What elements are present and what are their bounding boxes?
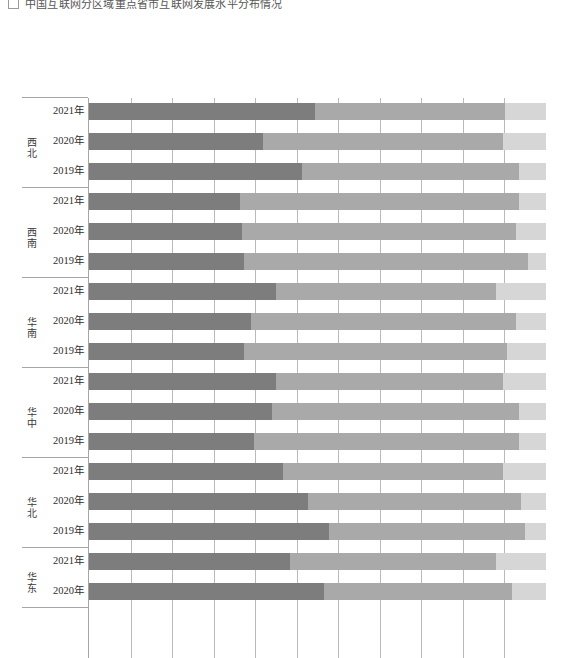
region-axis-label: 华东 (22, 553, 40, 613)
bar-row[interactable] (89, 223, 546, 240)
bar-segment-3[interactable] (519, 163, 546, 180)
bar-segment-1[interactable] (89, 373, 276, 390)
bar-segment-2[interactable] (324, 583, 511, 600)
bar-segment-2[interactable] (251, 313, 516, 330)
bar-segment-3[interactable] (521, 493, 546, 510)
group-separator (22, 367, 40, 368)
bar-segment-2[interactable] (244, 253, 527, 270)
bar-segment-2[interactable] (263, 133, 503, 150)
bar-segment-1[interactable] (89, 463, 283, 480)
bar-segment-3[interactable] (507, 343, 546, 360)
bar-row[interactable] (89, 343, 546, 360)
bar-segment-3[interactable] (516, 313, 546, 330)
group-separator (40, 607, 88, 608)
bar-segment-1[interactable] (89, 403, 272, 420)
bar-segment-1[interactable] (89, 493, 308, 510)
bar-segment-3[interactable] (512, 583, 546, 600)
stacked-bar-chart: 西北西南华南华中华北华东 2021年2020年2019年2021年2020年20… (22, 98, 546, 658)
bar-row[interactable] (89, 193, 546, 210)
year-tick-label: 2021年 (40, 466, 84, 477)
year-tick-label: 2019年 (40, 436, 84, 447)
year-tick-label: 2021年 (40, 196, 84, 207)
bar-row[interactable] (89, 163, 546, 180)
bar-segment-3[interactable] (516, 223, 546, 240)
group-separator (40, 547, 88, 548)
bar-segment-1[interactable] (89, 583, 324, 600)
bar-segment-2[interactable] (244, 343, 507, 360)
bar-segment-2[interactable] (283, 463, 502, 480)
bar-segment-1[interactable] (89, 283, 276, 300)
year-tick-label: 2020年 (40, 226, 84, 237)
bar-segment-3[interactable] (519, 403, 546, 420)
year-tick-label: 2019年 (40, 256, 84, 267)
bar-segment-2[interactable] (308, 493, 521, 510)
group-separator (22, 277, 40, 278)
bar-row[interactable] (89, 553, 546, 570)
axis-top-border (22, 97, 40, 98)
bar-row[interactable] (89, 133, 546, 150)
bar-segment-3[interactable] (525, 523, 546, 540)
group-separator (22, 457, 40, 458)
bar-segment-3[interactable] (503, 133, 546, 150)
year-tick-label: 2019年 (40, 346, 84, 357)
bar-segment-3[interactable] (503, 463, 546, 480)
bar-row[interactable] (89, 283, 546, 300)
bar-row[interactable] (89, 523, 546, 540)
bar-row[interactable] (89, 373, 546, 390)
year-tick-label: 2020年 (40, 136, 84, 147)
bar-row[interactable] (89, 583, 546, 600)
group-separator (40, 367, 88, 368)
bar-segment-2[interactable] (276, 283, 495, 300)
bar-segment-3[interactable] (503, 373, 546, 390)
year-axis: 2021年2020年2019年2021年2020年2019年2021年2020年… (40, 98, 88, 658)
bar-row[interactable] (89, 313, 546, 330)
bar-segment-1[interactable] (89, 223, 242, 240)
caption-text: 中国互联网分区域重点省市互联网发展水平分布情况 (25, 0, 283, 11)
bar-segment-1[interactable] (89, 343, 244, 360)
bar-segment-1[interactable] (89, 523, 329, 540)
bar-row[interactable] (89, 253, 546, 270)
checkbox-unchecked-icon[interactable] (8, 0, 19, 9)
bar-row[interactable] (89, 463, 546, 480)
bar-segment-2[interactable] (242, 223, 516, 240)
bar-row[interactable] (89, 433, 546, 450)
year-tick-label: 2021年 (40, 286, 84, 297)
axis-top-border (40, 97, 88, 98)
group-separator (22, 607, 40, 608)
bar-segment-3[interactable] (496, 283, 546, 300)
bar-segment-1[interactable] (89, 553, 290, 570)
bar-segment-3[interactable] (519, 433, 546, 450)
bar-row[interactable] (89, 403, 546, 420)
bar-segment-1[interactable] (89, 433, 254, 450)
year-tick-label: 2020年 (40, 406, 84, 417)
bar-segment-3[interactable] (519, 193, 546, 210)
region-axis-label: 华南 (22, 283, 40, 373)
bar-segment-2[interactable] (240, 193, 519, 210)
bar-segment-2[interactable] (272, 403, 519, 420)
bar-segment-1[interactable] (89, 253, 244, 270)
region-axis-label: 华北 (22, 463, 40, 553)
group-separator (40, 187, 88, 188)
bar-segment-1[interactable] (89, 133, 263, 150)
bar-segment-3[interactable] (496, 553, 546, 570)
bar-segment-2[interactable] (315, 103, 505, 120)
bar-segment-2[interactable] (290, 553, 496, 570)
bar-segment-2[interactable] (276, 373, 502, 390)
bar-segment-2[interactable] (302, 163, 519, 180)
year-tick-label: 2020年 (40, 496, 84, 507)
year-tick-label: 2020年 (40, 316, 84, 327)
bar-segment-1[interactable] (89, 193, 240, 210)
bar-segment-2[interactable] (254, 433, 519, 450)
bar-row[interactable] (89, 103, 546, 120)
bar-segment-1[interactable] (89, 163, 302, 180)
bar-segment-1[interactable] (89, 103, 315, 120)
bar-segment-1[interactable] (89, 313, 251, 330)
bar-segment-2[interactable] (329, 523, 526, 540)
bar-row[interactable] (89, 493, 546, 510)
year-tick-label: 2021年 (40, 376, 84, 387)
bar-segment-3[interactable] (505, 103, 546, 120)
year-tick-label: 2021年 (40, 106, 84, 117)
group-separator (22, 187, 40, 188)
bar-segment-3[interactable] (528, 253, 546, 270)
year-tick-label: 2019年 (40, 526, 84, 537)
